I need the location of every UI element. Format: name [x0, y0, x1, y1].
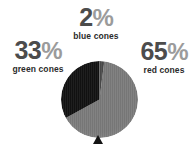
callout-red-cones: 65% red cones: [134, 40, 194, 74]
blue-cones-percent: 2%: [66, 6, 126, 30]
blue-cones-percent-number: 2: [79, 3, 92, 31]
green-cones-percent-number: 33: [14, 36, 41, 64]
red-cones-percent-number: 65: [140, 37, 167, 65]
red-cones-label: red cones: [134, 66, 194, 75]
blue-cones-percent-symbol: %: [93, 4, 113, 31]
red-cones-percent: 65%: [134, 40, 194, 64]
green-cones-percent-symbol: %: [41, 37, 61, 64]
callout-blue-cones: 2% blue cones: [66, 6, 126, 40]
callout-green-cones: 33% green cones: [2, 39, 74, 73]
green-cones-percent: 33%: [2, 39, 74, 63]
bottom-pointer-marker: [93, 135, 103, 144]
blue-cones-label: blue cones: [66, 32, 126, 41]
red-cones-percent-symbol: %: [167, 38, 187, 65]
green-cones-label: green cones: [2, 65, 74, 74]
cone-distribution-pie-chart-figure: 2% blue cones 33% green cones 65% red co…: [0, 0, 195, 147]
